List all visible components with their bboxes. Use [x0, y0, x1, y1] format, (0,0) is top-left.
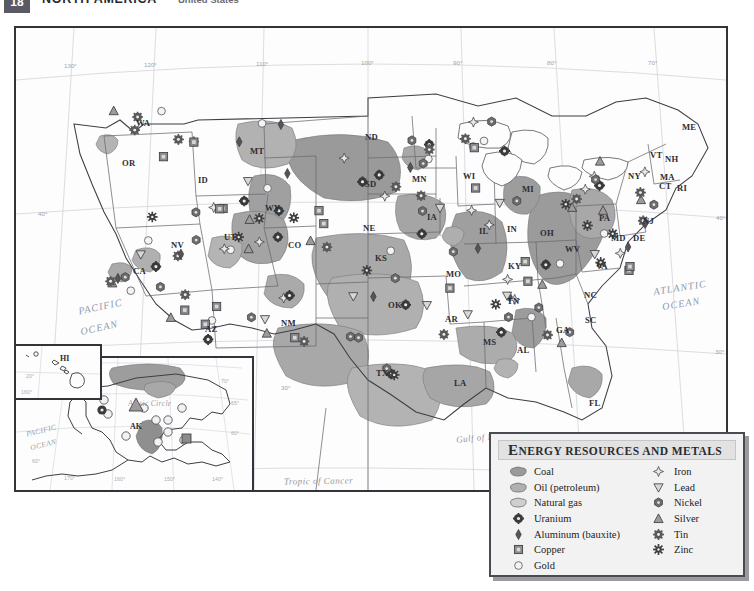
- copper-square-icon: [212, 302, 220, 310]
- inset-grid-label-4: 170°: [64, 475, 75, 481]
- map-legend[interactable]: ENERGY RESOURCES AND METALS CoalOil (pet…: [489, 432, 745, 577]
- state-label-hi: HI: [60, 354, 69, 363]
- header-region-title: NORTH AMERICA: [42, 0, 157, 6]
- nickel-hexagon-icon: [647, 497, 669, 508]
- page-header: 18 NORTH AMERICA United States: [0, 0, 754, 16]
- legend-label: Aluminum (bauxite): [529, 529, 620, 540]
- copper-square-icon: [524, 277, 532, 285]
- nickel-hexagon-icon: [419, 206, 427, 215]
- legend-label: Iron: [669, 466, 692, 477]
- gold-circle-icon: [264, 184, 272, 192]
- hawaii-grid-label-1: 160°: [21, 389, 32, 395]
- nickel-hexagon-icon: [121, 273, 129, 282]
- legend-row-oil-petroleum: Oil (petroleum): [507, 480, 647, 496]
- oil-blob-icon: [507, 482, 529, 493]
- gold-circle-icon: [507, 560, 529, 571]
- page-number-badge: 18: [4, 0, 30, 13]
- copper-square-icon: [470, 144, 478, 152]
- legend-row-natural-gas: Natural gas: [507, 495, 647, 511]
- gold-circle-icon: [600, 230, 608, 238]
- legend-row-aluminum-bauxite: Aluminum (bauxite): [507, 526, 647, 542]
- coal-blob-icon: [507, 466, 529, 477]
- inset-grid-label-6: 150°: [164, 476, 175, 482]
- legend-column-right: IronLeadNickelSilverTinZinc: [647, 464, 743, 573]
- gold-circle-icon: [127, 287, 135, 295]
- inset-grid-label-5: 160°: [114, 476, 125, 482]
- zinc-burst-icon: [647, 544, 669, 555]
- legend-row-silver: Silver: [647, 511, 743, 527]
- copper-square-icon: [291, 334, 299, 342]
- legend-label: Silver: [669, 513, 699, 524]
- uranium-star-icon: [507, 513, 529, 524]
- legend-label: Tin: [669, 529, 688, 540]
- legend-column-left: CoalOil (petroleum)Natural gasUraniumAlu…: [507, 464, 647, 573]
- legend-row-nickel: Nickel: [647, 495, 743, 511]
- gold-circle-icon: [144, 237, 152, 245]
- legend-row-coal: Coal: [507, 464, 647, 480]
- legend-label: Lead: [669, 482, 695, 493]
- copper-square-icon: [521, 257, 529, 265]
- legend-title-bar: ENERGY RESOURCES AND METALS: [498, 440, 736, 460]
- nickel-hexagon-icon: [449, 247, 457, 256]
- gold-circle-icon: [556, 260, 564, 268]
- copper-square-icon: [315, 207, 323, 215]
- nickel-hexagon-icon: [247, 313, 255, 322]
- iron-4point-star-icon: [647, 466, 669, 477]
- legend-label: Copper: [529, 544, 565, 555]
- nickel-hexagon-icon: [488, 117, 496, 126]
- copper-square-icon: [626, 262, 634, 270]
- legend-label: Nickel: [669, 497, 702, 508]
- legend-row-lead: Lead: [647, 480, 743, 496]
- lead-down-triangle-icon: [647, 482, 669, 493]
- inset-grid-label-3: 60°: [32, 458, 40, 464]
- legend-row-gold: Gold: [507, 558, 647, 574]
- gas-blob-icon: [507, 497, 529, 508]
- legend-label: Oil (petroleum): [529, 482, 600, 493]
- nickel-hexagon-icon: [650, 200, 658, 209]
- copper-square-icon: [446, 284, 454, 292]
- inset-geo-label-arctic-circle: Arctic Circle: [128, 399, 172, 408]
- nickel-hexagon-icon: [513, 196, 521, 205]
- nickel-hexagon-icon: [156, 282, 164, 291]
- silver-triangle-icon: [647, 513, 669, 524]
- legend-row-uranium: Uranium: [507, 511, 647, 527]
- nickel-hexagon-icon: [419, 159, 427, 168]
- nickel-hexagon-icon: [408, 136, 416, 145]
- gold-circle-icon: [158, 107, 166, 115]
- legend-row-tin: Tin: [647, 526, 743, 542]
- copper-square-icon: [216, 205, 224, 213]
- inset-grid-label-2: 60°: [231, 430, 239, 436]
- copper-square-icon: [320, 219, 328, 227]
- copper-square-icon: [181, 306, 189, 314]
- copper-square-icon: [201, 320, 209, 328]
- hawaii-inset-map[interactable]: HI20°160°: [14, 344, 102, 400]
- copper-square-icon: [471, 184, 479, 192]
- legend-label: Uranium: [529, 513, 571, 524]
- gold-circle-icon: [258, 120, 266, 128]
- gold-circle-icon: [387, 247, 395, 255]
- legend-title: ENERGY RESOURCES AND METALS: [508, 442, 722, 459]
- inset-grid-label-0: 70°: [221, 378, 229, 384]
- nickel-hexagon-icon: [505, 313, 513, 322]
- nickel-hexagon-icon: [535, 303, 543, 312]
- copper-square-icon: [159, 153, 167, 161]
- header-country-subtitle: United States: [178, 0, 239, 5]
- nickel-hexagon-icon: [192, 208, 200, 217]
- inset-grid-label-1: 65°: [231, 400, 239, 406]
- nickel-hexagon-icon: [355, 333, 363, 342]
- legend-row-copper: Copper: [507, 542, 647, 558]
- aluminum-diamond-icon: [507, 529, 529, 540]
- legend-row-zinc: Zinc: [647, 542, 743, 558]
- nickel-hexagon-icon: [383, 364, 391, 373]
- nickel-hexagon-icon: [566, 328, 574, 337]
- nickel-hexagon-icon: [391, 274, 399, 283]
- gold-circle-icon: [227, 246, 235, 254]
- legend-label: Gold: [529, 560, 555, 571]
- copper-square-icon: [190, 138, 198, 146]
- state-label-ak: AK: [130, 422, 142, 431]
- legend-label: Coal: [529, 466, 554, 477]
- legend-label: Zinc: [669, 544, 693, 555]
- legend-label: Natural gas: [529, 497, 582, 508]
- nickel-hexagon-icon: [347, 332, 355, 341]
- inset-grid-label-7: 140°: [212, 476, 223, 482]
